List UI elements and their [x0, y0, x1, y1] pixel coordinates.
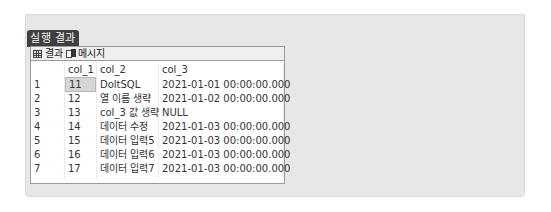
- cell-col-2[interactable]: col_3 값 생략: [97, 105, 159, 120]
- cell-col-3[interactable]: NULL: [159, 105, 284, 120]
- cell-col-3[interactable]: 2021-01-03 00:00:00.000: [159, 133, 284, 148]
- cell-col-3[interactable]: 2021-01-03 00:00:00.000: [159, 119, 284, 134]
- cell-col-2[interactable]: DoltSQL: [97, 77, 159, 92]
- tab-results-label: 결과: [45, 47, 63, 60]
- table-row: 6 16 데이터 입력6 2021-01-03 00:00:00.000: [31, 147, 284, 162]
- cell-col-3[interactable]: 2021-01-03 00:00:00.000: [159, 147, 284, 162]
- table-row: 7 17 데이터 입력7 2021-01-03 00:00:00.000: [31, 161, 284, 176]
- table-row: 5 15 데이터 입력5 2021-01-03 00:00:00.000: [31, 133, 284, 148]
- cell-col-2[interactable]: 데이터 입력7: [97, 161, 159, 176]
- grid-header-row: col_1 col_2 col_3: [31, 62, 284, 77]
- cell-col-2[interactable]: 데이터 입력6: [97, 147, 159, 162]
- table-row: 3 13 col_3 값 생략 NULL: [31, 105, 284, 120]
- cell-col-2[interactable]: 열 이름 생략: [97, 91, 159, 106]
- table-row: 2 12 열 이름 생략 2021-01-02 00:00:00.000: [31, 91, 284, 106]
- results-tabbar: 결과 메시지: [30, 46, 285, 60]
- row-number-header[interactable]: [34, 62, 64, 77]
- column-header-col-3[interactable]: col_3: [159, 62, 284, 77]
- row-number[interactable]: 6: [34, 147, 64, 162]
- tab-results[interactable]: 결과: [33, 47, 63, 60]
- panel-title: 실행 결과: [27, 30, 79, 47]
- cell-col-3[interactable]: 2021-01-02 00:00:00.000: [159, 91, 284, 106]
- column-header-col-2[interactable]: col_2: [97, 62, 159, 77]
- cell-col-2[interactable]: 데이터 수정: [97, 119, 159, 134]
- row-number[interactable]: 5: [34, 133, 64, 148]
- row-number[interactable]: 3: [34, 105, 64, 120]
- table-row: 1 11 DoltSQL 2021-01-01 00:00:00.000: [31, 77, 284, 92]
- grid-icon: [33, 50, 42, 58]
- cell-col-1[interactable]: 16: [65, 147, 96, 162]
- table-row: 4 14 데이터 수정 2021-01-03 00:00:00.000: [31, 119, 284, 134]
- cell-col-3[interactable]: 2021-01-03 00:00:00.000: [159, 161, 284, 176]
- cell-col-1[interactable]: 17: [65, 161, 96, 176]
- tab-messages[interactable]: 메시지: [66, 47, 105, 60]
- cell-col-1[interactable]: 13: [65, 105, 96, 120]
- message-icon: [66, 49, 76, 58]
- tab-messages-label: 메시지: [78, 47, 105, 60]
- row-number[interactable]: 7: [34, 161, 64, 176]
- row-number[interactable]: 1: [34, 77, 64, 92]
- column-header-col-1[interactable]: col_1: [65, 62, 96, 77]
- cell-col-1-selected[interactable]: 11: [65, 77, 96, 92]
- cell-col-2[interactable]: 데이터 입력5: [97, 133, 159, 148]
- cell-col-1[interactable]: 14: [65, 119, 96, 134]
- cell-col-1[interactable]: 15: [65, 133, 96, 148]
- cell-col-3[interactable]: 2021-01-01 00:00:00.000: [159, 77, 284, 92]
- results-grid: col_1 col_2 col_3 1 11 DoltSQL 2021-01-0…: [30, 60, 285, 184]
- row-number[interactable]: 2: [34, 91, 64, 106]
- cell-col-1[interactable]: 12: [65, 91, 96, 106]
- row-number[interactable]: 4: [34, 119, 64, 134]
